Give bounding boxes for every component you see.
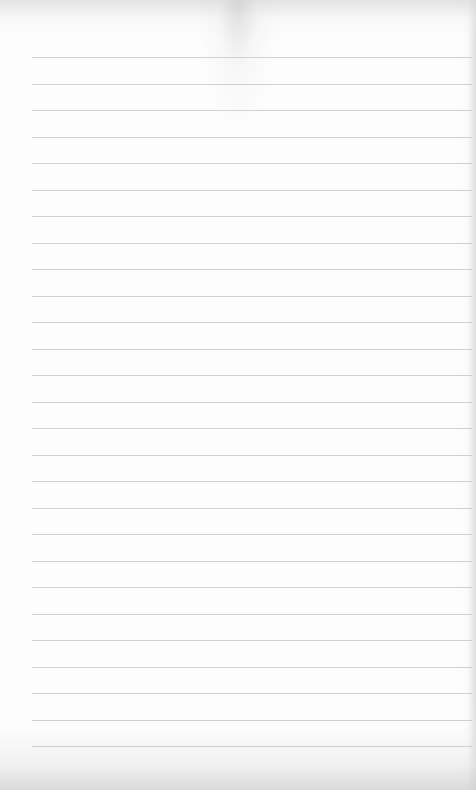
ruled-line (32, 587, 472, 588)
ruled-line (32, 84, 472, 85)
ruled-line (32, 746, 472, 747)
ruled-line (32, 269, 472, 270)
ruled-line (32, 508, 472, 509)
ruled-line (32, 375, 472, 376)
ruled-line (32, 190, 472, 191)
ruled-line (32, 163, 472, 164)
ruled-line (32, 243, 472, 244)
lined-paper-sheet (0, 0, 476, 790)
ruled-line (32, 693, 472, 694)
ruled-line (32, 561, 472, 562)
ruled-line (32, 481, 472, 482)
ruled-line (32, 110, 472, 111)
ruled-line (32, 296, 472, 297)
ruled-line (32, 614, 472, 615)
ruled-line (32, 216, 472, 217)
ruled-line (32, 349, 472, 350)
ruled-line (32, 402, 472, 403)
ruled-line (32, 455, 472, 456)
ruled-line (32, 137, 472, 138)
ruled-line (32, 428, 472, 429)
ruled-line (32, 667, 472, 668)
ruled-line (32, 322, 472, 323)
ruled-line (32, 640, 472, 641)
ruled-line (32, 534, 472, 535)
ruled-line (32, 720, 472, 721)
ruled-line (32, 57, 472, 58)
